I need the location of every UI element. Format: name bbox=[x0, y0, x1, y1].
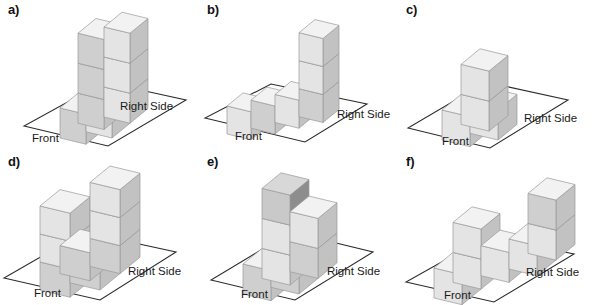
panel-f: f) Front Right Side bbox=[398, 152, 594, 305]
right-side-label-b: Right Side bbox=[337, 108, 390, 120]
front-label-f: Front bbox=[444, 289, 472, 301]
blocks-b bbox=[227, 20, 339, 140]
right-side-label-c: Right Side bbox=[524, 112, 577, 124]
front-label-e: Front bbox=[241, 288, 269, 300]
panel-e-drawing: Front Right Side bbox=[199, 152, 398, 305]
panel-b-drawing: Front Right Side bbox=[199, 0, 398, 152]
panel-d: d) Front Right Side bbox=[0, 152, 199, 305]
panel-a-drawing: Front Right Side bbox=[0, 0, 199, 152]
panel-a: a) Front Right Side bbox=[0, 0, 199, 152]
right-side-label-f: Right Side bbox=[526, 266, 579, 278]
front-label-a: Front bbox=[32, 132, 60, 144]
panel-c: c) Front Right Side bbox=[398, 0, 594, 152]
front-label-c: Front bbox=[442, 135, 470, 147]
blocks-c bbox=[442, 49, 517, 147]
figure-panel-grid: a) Front Right Side b) Front Right Side … bbox=[0, 0, 594, 305]
panel-f-drawing: Front Right Side bbox=[398, 152, 594, 305]
front-label-b: Front bbox=[235, 130, 263, 142]
right-side-label-d: Right Side bbox=[128, 265, 181, 277]
right-side-label-a: Right Side bbox=[120, 100, 173, 112]
panel-d-drawing: Front Right Side bbox=[0, 152, 199, 305]
panel-e: e) Front Right Side bbox=[199, 152, 398, 305]
right-side-label-e: Right Side bbox=[327, 265, 380, 277]
panel-b: b) Front Right Side bbox=[199, 0, 398, 152]
front-label-d: Front bbox=[34, 287, 62, 299]
panel-c-drawing: Front Right Side bbox=[398, 0, 594, 152]
